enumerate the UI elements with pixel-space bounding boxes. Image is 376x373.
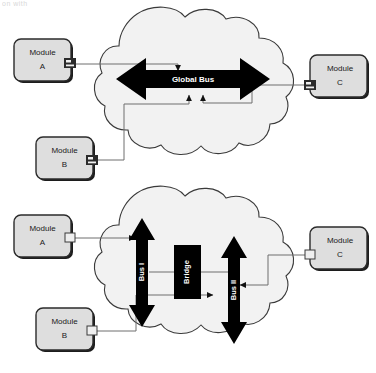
module-a-bridged-label-1: Module — [29, 224, 56, 233]
module-a-bridged-label-2: A — [40, 238, 46, 247]
bridge-box: Bridge — [174, 245, 201, 299]
module-b-global-label-1: Module — [51, 146, 78, 155]
module-b-global[interactable]: Module B — [36, 137, 98, 181]
module-c-global-label-1: Module — [327, 64, 354, 73]
module-c-global-label-2: C — [337, 78, 343, 87]
port-icon[interactable] — [86, 155, 98, 165]
diagram-bridged-bus: Bus I Bridge Bus II Module A — [14, 186, 369, 352]
module-c-bridged-label-2: C — [337, 250, 343, 259]
port-icon[interactable] — [64, 58, 76, 68]
diagram-global-bus: Global Bus Module A Module B — [14, 7, 369, 181]
module-a-global[interactable]: Module A — [14, 39, 76, 83]
module-c-bridged-label-1: Module — [327, 236, 354, 245]
bridge-label: Bridge — [182, 260, 191, 284]
bus-global-label: Global Bus — [172, 75, 215, 84]
module-b-global-label-2: B — [62, 160, 67, 169]
port-icon[interactable] — [87, 326, 97, 335]
module-c-global[interactable]: Module C — [304, 55, 369, 99]
module-b-bridged-label-2: B — [62, 331, 67, 340]
module-a-global-label-2: A — [40, 62, 46, 71]
module-b-bridged[interactable]: Module B — [36, 308, 97, 352]
port-icon[interactable] — [305, 250, 315, 259]
bus-1-label: Bus I — [137, 263, 146, 281]
module-b-bridged-label-1: Module — [51, 317, 78, 326]
bus-2-label: Bus II — [229, 280, 238, 300]
module-a-bridged[interactable]: Module A — [14, 215, 75, 259]
module-a-global-label-1: Module — [29, 48, 56, 57]
module-c-bridged[interactable]: Module C — [305, 227, 369, 271]
port-icon[interactable] — [304, 80, 316, 90]
diagram-canvas: Global Bus Module A Module B — [0, 0, 376, 373]
diagram-page: on with Globa — [0, 0, 376, 373]
port-icon[interactable] — [65, 233, 75, 242]
